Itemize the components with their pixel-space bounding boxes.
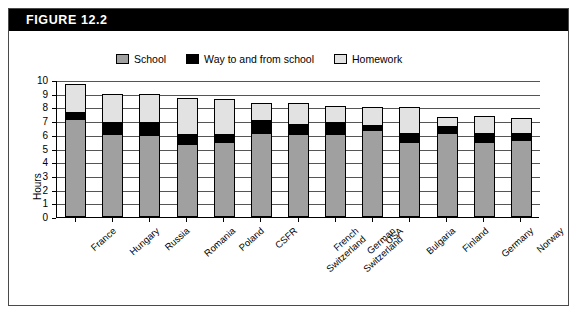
legend-item: Homework <box>334 53 402 65</box>
bar-segment-way <box>178 134 197 145</box>
square-swatch-icon <box>116 54 129 64</box>
legend-item: Way to and from school <box>186 53 314 65</box>
y-tick-label: 5 <box>26 145 48 155</box>
x-tick-mark <box>446 218 447 222</box>
x-tick-mark <box>260 218 261 222</box>
bar-segment-home <box>103 95 122 122</box>
y-tick-mark <box>52 218 56 219</box>
y-tick-mark <box>52 204 56 205</box>
bar-segment-school <box>66 120 85 216</box>
gridline <box>57 81 540 82</box>
bar-segment-way <box>252 120 271 133</box>
bar-romania <box>177 98 198 217</box>
bar-segment-school <box>178 145 197 216</box>
bar-segment-home <box>400 108 419 132</box>
x-tick-mark <box>112 218 113 222</box>
square-swatch-icon <box>334 54 347 64</box>
bar-hungary <box>102 94 123 217</box>
bar-norway <box>511 118 532 217</box>
bar-segment-way <box>326 122 345 135</box>
bar-segment-home <box>475 117 494 133</box>
bar-segment-home <box>438 118 457 126</box>
bar-segment-way <box>103 122 122 135</box>
chart-legend: SchoolWay to and from schoolHomework <box>116 53 402 65</box>
legend-item-label: School <box>134 53 166 65</box>
y-tick-label: 9 <box>26 90 48 100</box>
bar-segment-home <box>363 108 382 125</box>
gridline <box>57 95 540 96</box>
y-tick-mark <box>52 136 56 137</box>
x-tick-mark <box>298 218 299 222</box>
y-tick-label: 10 <box>26 76 48 86</box>
bar-segment-way <box>512 133 531 141</box>
y-tick-label: 0 <box>26 213 48 223</box>
chart-plot-area <box>56 81 539 218</box>
y-tick-label: 4 <box>26 158 48 168</box>
y-tick-mark <box>52 191 56 192</box>
y-tick-mark <box>52 150 56 151</box>
x-tick-mark <box>483 218 484 222</box>
x-tick-mark <box>520 218 521 222</box>
bar-segment-home <box>326 107 345 122</box>
bar-segment-home <box>289 104 308 124</box>
bar-segment-school <box>363 131 382 216</box>
y-tick-mark <box>52 81 56 82</box>
y-tick-mark <box>52 108 56 109</box>
bar-segment-way <box>140 122 159 137</box>
bar-german-switzerland <box>325 106 346 217</box>
bar-segment-way <box>438 126 457 134</box>
bar-french-switzerland <box>288 103 309 217</box>
bar-segment-home <box>512 119 531 132</box>
y-tick-mark <box>52 95 56 96</box>
bar-segment-way <box>289 124 308 135</box>
bar-usa <box>362 107 383 217</box>
y-tick-mark <box>52 163 56 164</box>
bar-segment-school <box>140 136 159 216</box>
figure-number-label: FIGURE 12.2 <box>26 13 108 27</box>
bar-russia <box>139 94 160 217</box>
bar-segment-school <box>103 135 122 216</box>
y-tick-mark <box>52 122 56 123</box>
bar-segment-school <box>289 135 308 216</box>
bar-segment-school <box>326 135 345 216</box>
legend-item: School <box>116 53 166 65</box>
bar-csfr <box>251 103 272 217</box>
bar-segment-school <box>512 141 531 216</box>
y-tick-label: 6 <box>26 131 48 141</box>
bar-segment-home <box>66 85 85 112</box>
bar-germany <box>474 116 495 217</box>
bar-bulgaria <box>399 107 420 217</box>
bar-finland <box>437 117 458 217</box>
bar-segment-school <box>215 143 234 216</box>
bar-segment-home <box>252 104 271 120</box>
bar-segment-school <box>438 134 457 216</box>
bar-segment-home <box>140 95 159 122</box>
bar-france <box>65 84 86 217</box>
bar-segment-school <box>252 134 271 216</box>
y-axis-title: Hours <box>32 173 43 200</box>
y-tick-label: 7 <box>26 117 48 127</box>
legend-item-label: Homework <box>352 53 402 65</box>
x-tick-mark <box>75 218 76 222</box>
y-tick-label: 8 <box>26 103 48 113</box>
legend-item-label: Way to and from school <box>204 53 314 65</box>
x-tick-mark <box>186 218 187 222</box>
bar-segment-home <box>215 100 234 134</box>
bar-segment-way <box>400 133 419 144</box>
bar-poland <box>214 99 235 217</box>
y-tick-mark <box>52 177 56 178</box>
bar-segment-way <box>215 134 234 143</box>
bar-segment-school <box>400 143 419 216</box>
x-tick-mark <box>335 218 336 222</box>
y-tick-label: 1 <box>26 199 48 209</box>
x-tick-mark <box>223 218 224 222</box>
bar-segment-school <box>475 143 494 216</box>
x-tick-mark <box>372 218 373 222</box>
bar-segment-way <box>475 133 494 143</box>
square-swatch-icon <box>186 54 199 64</box>
x-tick-mark <box>149 218 150 222</box>
bar-segment-way <box>66 112 85 119</box>
bar-segment-home <box>178 99 197 134</box>
x-tick-mark <box>409 218 410 222</box>
